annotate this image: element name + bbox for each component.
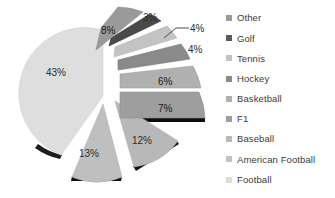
legend-item-label: Other (237, 13, 261, 23)
legend-item-tennis[interactable]: Tennis (220, 48, 335, 68)
legend-item-baseball[interactable]: Baseball (220, 129, 335, 149)
legend-swatch-icon (226, 96, 232, 102)
legend-item-label: Baseball (237, 134, 274, 144)
slice-label-baseball: 12% (132, 135, 152, 146)
legend-item-label: American Football (237, 155, 315, 165)
legend-item-label: Golf (237, 34, 255, 44)
legend-item-label: Tennis (237, 54, 265, 64)
legend-swatch-icon (226, 156, 232, 162)
chart-legend: Other Golf Tennis Hockey Basketball F1 B… (220, 8, 335, 194)
slice-label-other: 8% (101, 25, 116, 36)
legend-swatch-icon (226, 55, 232, 61)
pie-svg: 43% 13% 12% 7% 6% 4% 4% 3% 8% (0, 0, 215, 198)
legend-swatch-icon (226, 35, 232, 41)
legend-item-f1[interactable]: F1 (220, 109, 335, 129)
slice-label-hockey: 4% (188, 44, 203, 55)
legend-item-football[interactable]: Football (220, 170, 335, 190)
legend-item-other[interactable]: Other (220, 8, 335, 28)
legend-item-golf[interactable]: Golf (220, 28, 335, 48)
legend-swatch-icon (226, 15, 232, 21)
legend-item-hockey[interactable]: Hockey (220, 69, 335, 89)
slice-label-american-football: 13% (79, 148, 99, 159)
legend-swatch-icon (226, 136, 232, 142)
legend-item-label: F1 (237, 114, 248, 124)
legend-item-basketball[interactable]: Basketball (220, 89, 335, 109)
pie-chart-plot: 43% 13% 12% 7% 6% 4% 4% 3% 8% (0, 0, 215, 198)
slice-label-tennis: 4% (190, 23, 205, 34)
legend-item-label: Hockey (237, 74, 269, 84)
legend-swatch-icon (226, 116, 232, 122)
legend-item-label: Football (237, 175, 272, 185)
legend-swatch-icon (226, 76, 232, 82)
legend-item-american-football[interactable]: American Football (220, 149, 335, 169)
legend-item-label: Basketball (237, 94, 282, 104)
slice-label-football: 43% (46, 67, 66, 78)
slice-label-basketball: 6% (158, 76, 173, 87)
slice-label-golf: 3% (143, 12, 158, 23)
pie-chart-figure: 43% 13% 12% 7% 6% 4% 4% 3% 8% Other Golf… (0, 0, 335, 198)
slice-label-f1: 7% (158, 103, 173, 114)
legend-swatch-icon (226, 177, 232, 183)
